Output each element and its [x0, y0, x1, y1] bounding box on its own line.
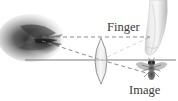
fly-insect	[136, 58, 167, 81]
image-label: Image	[129, 84, 160, 97]
finger-label: Finger	[107, 21, 140, 34]
dashed-ray-finger-to-lens	[101, 37, 150, 60]
fingertip	[145, 0, 167, 55]
converging-lens	[95, 38, 107, 84]
optics-ray-diagram-figure: Finger Image	[0, 0, 178, 101]
magnified-blurred-fly	[0, 14, 64, 62]
